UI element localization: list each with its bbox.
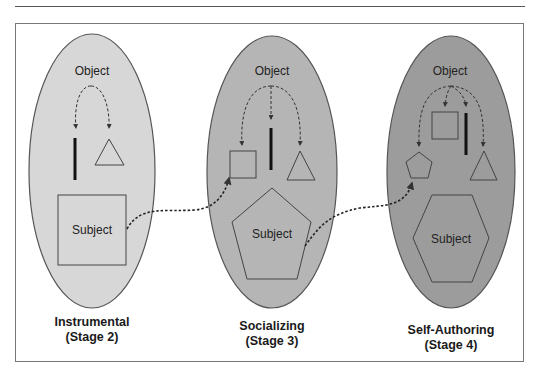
stage2-subtitle: (Stage 2) bbox=[66, 330, 119, 344]
stage2-subject-label: Subject bbox=[72, 223, 113, 237]
stage4-subtitle: (Stage 4) bbox=[425, 338, 478, 352]
stage3-title: Socializing bbox=[239, 319, 304, 333]
stage3-group: Object Subject Socializing (Stage 3) bbox=[207, 36, 337, 348]
stage2-object-label: Object bbox=[75, 64, 110, 78]
stage4-object-label: Object bbox=[433, 64, 468, 78]
stage2-group: Object Subject Instrumental (Stage 2) bbox=[29, 34, 155, 344]
stage3-object-label: Object bbox=[255, 64, 290, 78]
diagram-canvas: Object Subject Instrumental (Stage 2) Ob… bbox=[0, 0, 543, 376]
stage4-title: Self-Authoring bbox=[408, 323, 495, 337]
stage3-subject-label: Subject bbox=[252, 227, 293, 241]
figure: Object Subject Instrumental (Stage 2) Ob… bbox=[0, 0, 543, 376]
stage4-subject-label: Subject bbox=[431, 232, 472, 246]
stage2-title: Instrumental bbox=[54, 315, 129, 329]
stage3-subtitle: (Stage 3) bbox=[246, 334, 299, 348]
